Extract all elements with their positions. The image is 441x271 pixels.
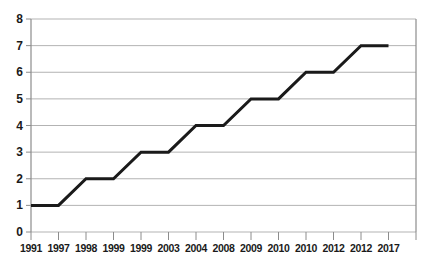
x-tick-label: 1999 bbox=[130, 243, 152, 254]
plot-area bbox=[0, 0, 441, 271]
x-tick-label: 2010 bbox=[295, 243, 317, 254]
x-tick-label: 2004 bbox=[185, 243, 207, 254]
x-tick-label: 1997 bbox=[48, 243, 70, 254]
x-axis: 1991199719981999199920032004200820092010… bbox=[0, 243, 441, 263]
x-tick-label: 1991 bbox=[20, 243, 42, 254]
x-tick-label: 1998 bbox=[75, 243, 97, 254]
x-tick-label: 2012 bbox=[350, 243, 372, 254]
x-tick-label: 2009 bbox=[240, 243, 262, 254]
line-chart: 876543210 199119971998199919992003200420… bbox=[0, 0, 441, 271]
x-tick-label: 2003 bbox=[158, 243, 180, 254]
x-tick-label: 2008 bbox=[213, 243, 235, 254]
x-tick-label: 2012 bbox=[323, 243, 345, 254]
x-tick-label: 2017 bbox=[378, 243, 400, 254]
x-tick-label: 2010 bbox=[268, 243, 290, 254]
x-tick-label: 1999 bbox=[103, 243, 125, 254]
